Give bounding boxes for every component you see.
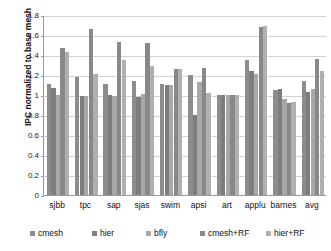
y-tick-label: 0 [0, 192, 43, 200]
legend-item[interactable]: cmesh [30, 228, 63, 238]
legend-label: cmesh+RF [208, 228, 249, 238]
bar-group [103, 16, 126, 195]
y-tick-label: 1.4 [0, 52, 43, 60]
legend-label: hier [100, 228, 114, 238]
bar-group [188, 16, 211, 195]
x-axis-label: sap [100, 200, 128, 211]
x-axis-label: swim [156, 200, 184, 211]
bar-group [302, 16, 325, 195]
bar-group [75, 16, 98, 195]
y-tick-label: 0.8 [0, 112, 43, 120]
x-axis-label: art [213, 200, 241, 211]
x-axis-labels: sjbbtpcsapsjasswimapsiartapplubarnesavg [43, 200, 326, 214]
bar-group [132, 16, 155, 195]
bar-chart: IPC normalized to base mesh 00.20.40.60.… [0, 0, 331, 251]
plot-area [43, 16, 326, 196]
bar [150, 66, 154, 195]
legend-swatch-icon [30, 231, 35, 236]
bar [263, 26, 267, 195]
x-axis-label: sjbb [43, 200, 71, 211]
bar-group [273, 16, 296, 195]
y-tick-label: 1.6 [0, 32, 43, 40]
x-axis-label: barnes [269, 200, 297, 211]
bar [291, 102, 295, 195]
legend-label: cmesh [38, 228, 63, 238]
y-tick-label: 0.2 [0, 172, 43, 180]
legend-item[interactable]: cmesh+RF [200, 228, 249, 238]
x-axis-label: applu [241, 200, 269, 211]
legend-item[interactable]: hier+RF [266, 228, 304, 238]
y-tick-label: 0.6 [0, 132, 43, 140]
bar [122, 60, 126, 195]
bar [206, 93, 210, 195]
y-tick-label: 1 [0, 92, 43, 100]
bar [178, 69, 182, 195]
bar-group [245, 16, 268, 195]
x-axis-label: apsi [185, 200, 213, 211]
legend-item[interactable]: hier [92, 228, 114, 238]
bar [320, 71, 324, 195]
y-tick-label: 1.8 [0, 12, 43, 20]
legend-label: bfly [154, 228, 167, 238]
x-axis-label: avg [298, 200, 326, 211]
bar-group [160, 16, 183, 195]
x-axis-label: sjas [128, 200, 156, 211]
bar [93, 74, 97, 195]
bar-group [47, 16, 70, 195]
y-tick-label: 0.4 [0, 152, 43, 160]
legend-swatch-icon [146, 231, 151, 236]
bar [65, 52, 69, 195]
x-axis-label: tpc [71, 200, 99, 211]
bar [235, 95, 239, 195]
legend-label: hier+RF [274, 228, 304, 238]
legend-item[interactable]: bfly [146, 228, 167, 238]
chart-legend: cmeshhierbflycmesh+RFhier+RF [30, 228, 320, 242]
legend-swatch-icon [200, 231, 205, 236]
bar-group [217, 16, 240, 195]
legend-swatch-icon [266, 231, 271, 236]
y-tick-label: 1.2 [0, 72, 43, 80]
bar-groups [44, 16, 326, 195]
legend-swatch-icon [92, 231, 97, 236]
